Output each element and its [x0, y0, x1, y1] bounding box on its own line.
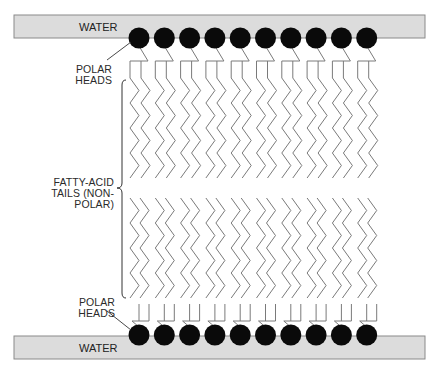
- head-tail-linker: [360, 304, 377, 327]
- fatty-acid-tail: [307, 78, 316, 178]
- head-tail-linker: [259, 304, 276, 327]
- polar-head: [255, 28, 276, 49]
- polar-head: [255, 325, 276, 346]
- fatty-acid-tail: [282, 78, 291, 178]
- fatty-acid-tail: [257, 78, 266, 178]
- head-tail-linker: [334, 304, 351, 327]
- fatty-acid-tail: [358, 198, 367, 298]
- fatty-acid-tail: [206, 198, 215, 298]
- polar-head: [356, 28, 377, 49]
- fatty-acid-tail: [242, 78, 251, 178]
- fatty-acid-tail: [293, 78, 302, 178]
- fatty-acid-tail: [130, 78, 139, 178]
- polar-heads-top-line2: HEADS: [62, 75, 112, 86]
- fatty-acid-tail: [130, 198, 139, 298]
- polar-heads-label-top: POLAR HEADS: [62, 64, 112, 86]
- fatty-acid-tail: [206, 78, 215, 178]
- fatty-acid-tail: [342, 198, 351, 298]
- fatty-acid-tail: [257, 198, 266, 298]
- fatty-acid-tail: [140, 198, 149, 298]
- fatty-acid-tail: [241, 198, 250, 298]
- head-tail-linker: [208, 304, 225, 327]
- polar-head: [280, 28, 301, 49]
- polar-head: [306, 325, 327, 346]
- polar-head: [356, 325, 377, 346]
- bottom-layer-tails: [130, 198, 377, 327]
- fatty-acid-tail: [318, 78, 327, 178]
- fatty-acid-tail: [155, 78, 164, 178]
- polar-head: [179, 28, 200, 49]
- fatty-acid-tail: [165, 198, 174, 298]
- polar-head: [331, 325, 352, 346]
- fatty-acid-tail: [282, 198, 291, 298]
- fatty-acid-tail: [332, 78, 341, 178]
- head-tail-linker: [181, 46, 199, 78]
- fatty-acid-tail: [317, 198, 326, 298]
- top-layer-tails: [130, 46, 378, 178]
- head-tail-linker: [231, 46, 249, 78]
- polar-head: [230, 325, 251, 346]
- fatty-acid-tail: [368, 198, 377, 298]
- head-tail-linker: [282, 46, 300, 78]
- fatty-acid-tail: [181, 78, 190, 178]
- polar-heads-top-leader: [107, 42, 131, 60]
- fatty-acid-tail: [191, 198, 200, 298]
- head-tail-linker: [233, 304, 250, 327]
- polar-head: [154, 325, 175, 346]
- fatty-acid-tail: [369, 78, 378, 178]
- water-label-top: WATER: [79, 21, 118, 33]
- fatty-acid-tail: [192, 78, 201, 178]
- fatty-acid-tail: [268, 78, 277, 178]
- polar-head: [204, 28, 225, 49]
- fatty-acid-tail: [217, 78, 226, 178]
- fatty-acid-tail: [267, 198, 276, 298]
- head-tail-linker: [157, 304, 174, 327]
- fatty-acid-tail: [231, 198, 240, 298]
- head-tail-linker: [132, 304, 149, 327]
- polar-head: [179, 325, 200, 346]
- fatty-acid-tail: [292, 198, 301, 298]
- fatty-acid-tail: [332, 198, 341, 298]
- head-tail-linker: [155, 46, 173, 78]
- fatty-acid-tail: [216, 198, 225, 298]
- fatty-acid-tail: [155, 198, 164, 298]
- tails-label-line3: POLAR): [30, 199, 114, 210]
- head-tail-linker: [309, 304, 326, 327]
- fatty-acid-tail: [166, 78, 175, 178]
- polar-head: [280, 325, 301, 346]
- fatty-acid-tail: [307, 198, 316, 298]
- head-tail-linker: [332, 46, 350, 78]
- fatty-acid-tails-label: FATTY-ACID TAILS (NON- POLAR): [30, 177, 114, 210]
- head-tail-linker: [358, 46, 376, 78]
- head-tail-linker: [284, 304, 301, 327]
- polar-head: [129, 325, 150, 346]
- fatty-acid-tail: [343, 78, 352, 178]
- fatty-acid-tail: [231, 78, 240, 178]
- head-tail-linker: [307, 46, 325, 78]
- polar-head: [331, 28, 352, 49]
- polar-head: [129, 28, 150, 49]
- polar-head: [154, 28, 175, 49]
- fatty-acid-tail: [141, 78, 150, 178]
- head-tail-linker: [206, 46, 224, 78]
- head-tail-linker: [183, 304, 200, 327]
- polar-heads-bottom-line2: HEADS: [65, 308, 115, 319]
- head-tail-linker: [130, 46, 148, 78]
- polar-head: [230, 28, 251, 49]
- polar-head: [306, 28, 327, 49]
- polar-heads-label-bottom: POLAR HEADS: [65, 297, 115, 319]
- fatty-acid-tail: [358, 78, 367, 178]
- fatty-acid-tail: [181, 198, 190, 298]
- polar-head: [204, 325, 225, 346]
- tails-brace: [117, 80, 126, 298]
- water-label-bottom: WATER: [79, 342, 118, 354]
- head-tail-linker: [257, 46, 275, 78]
